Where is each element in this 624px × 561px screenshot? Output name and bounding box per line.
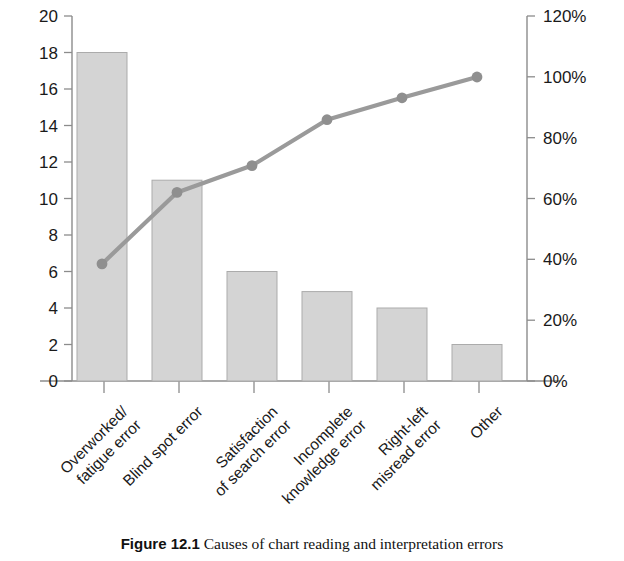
- line-marker: [247, 160, 258, 171]
- left-axis-tick-label: 0: [16, 373, 58, 390]
- left-axis-tick-label: 10: [16, 190, 58, 207]
- line-marker: [472, 72, 483, 83]
- right-axis-tick-label: 40%: [543, 251, 577, 268]
- left-axis-tick-label: 6: [16, 263, 58, 280]
- bar: [452, 345, 502, 382]
- right-axis-tick-label: 120%: [543, 8, 586, 25]
- line-marker: [97, 259, 108, 270]
- right-axis-tick-label: 80%: [543, 129, 577, 146]
- chart-canvas: [0, 0, 624, 400]
- bar-series: [77, 53, 502, 382]
- right-axis-tick-label: 20%: [543, 312, 577, 329]
- line-marker: [322, 114, 333, 125]
- left-axis-tick-label: 18: [16, 44, 58, 61]
- left-axis-tick-label: 12: [16, 154, 58, 171]
- bar: [377, 308, 427, 381]
- left-axis-tick-label: 14: [16, 117, 58, 134]
- right-axis-tick-label: 100%: [543, 68, 586, 85]
- pareto-chart: 20 18 16 14 12 10 8 6 4 2 0 120% 100% 80…: [0, 0, 624, 400]
- right-axis-tick-label: 0%: [543, 373, 568, 390]
- left-axis-ticks: [64, 16, 72, 381]
- figure-container: 20 18 16 14 12 10 8 6 4 2 0 120% 100% 80…: [0, 0, 624, 561]
- line-marker: [397, 92, 408, 103]
- right-axis-ticks: [527, 16, 535, 381]
- figure-caption-text: Causes of chart reading and interpretati…: [200, 535, 503, 552]
- figure-caption: Figure 12.1 Causes of chart reading and …: [0, 534, 624, 554]
- bar: [227, 272, 277, 382]
- figure-caption-number: Figure 12.1: [121, 535, 200, 552]
- left-axis-tick-label: 20: [16, 8, 58, 25]
- x-axis-category-labels: Overworked/fatigue error Blind spot erro…: [0, 396, 624, 528]
- right-axis-tick-label: 60%: [543, 190, 577, 207]
- line-marker: [172, 187, 183, 198]
- x-axis-ticks: [104, 381, 479, 393]
- bar: [77, 53, 127, 382]
- category-label-overworked-fatigue-error: Overworked/fatigue error: [19, 402, 145, 528]
- left-axis-tick-label: 2: [16, 336, 58, 353]
- left-axis-tick-label: 8: [16, 227, 58, 244]
- bar: [302, 292, 352, 381]
- left-axis-tick-label: 16: [16, 81, 58, 98]
- left-axis-tick-label: 4: [16, 300, 58, 317]
